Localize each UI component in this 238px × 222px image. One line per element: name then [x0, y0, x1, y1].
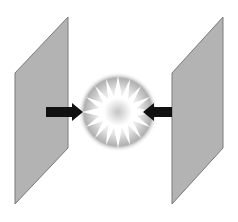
burst-core — [104, 98, 132, 126]
diagram-canvas — [0, 0, 238, 222]
right-plate — [172, 17, 223, 204]
